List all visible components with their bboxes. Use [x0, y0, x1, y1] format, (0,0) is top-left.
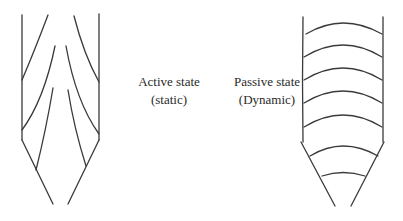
right-hopper-wall: [68, 140, 99, 204]
active-state-label: Active state (static): [128, 73, 210, 109]
slip-line: [68, 90, 86, 166]
slip-line: [66, 46, 99, 134]
active-state-subtitle: (static): [128, 91, 210, 109]
arch-line: [304, 45, 382, 57]
arch-line: [322, 173, 365, 177]
passive-state-label: Passive state (Dynamic): [224, 73, 310, 109]
passive-state-hopper: [301, 17, 384, 206]
arch-line: [304, 91, 382, 103]
diagram-canvas: Active state (static) Passive state (Dyn…: [0, 0, 403, 221]
passive-state-subtitle: (Dynamic): [224, 91, 310, 109]
arch-line: [310, 146, 378, 156]
arch-line: [304, 68, 382, 80]
arch-line: [304, 115, 382, 127]
slip-line: [22, 46, 55, 130]
slip-line: [74, 16, 99, 82]
active-state-title: Active state: [128, 73, 210, 91]
active-state-hopper: [22, 14, 99, 204]
passive-state-title: Passive state: [224, 73, 310, 91]
left-hopper-wall: [22, 140, 53, 204]
slip-line: [22, 15, 48, 80]
arch-line: [306, 23, 382, 34]
hopper-diagrams: [0, 0, 403, 221]
